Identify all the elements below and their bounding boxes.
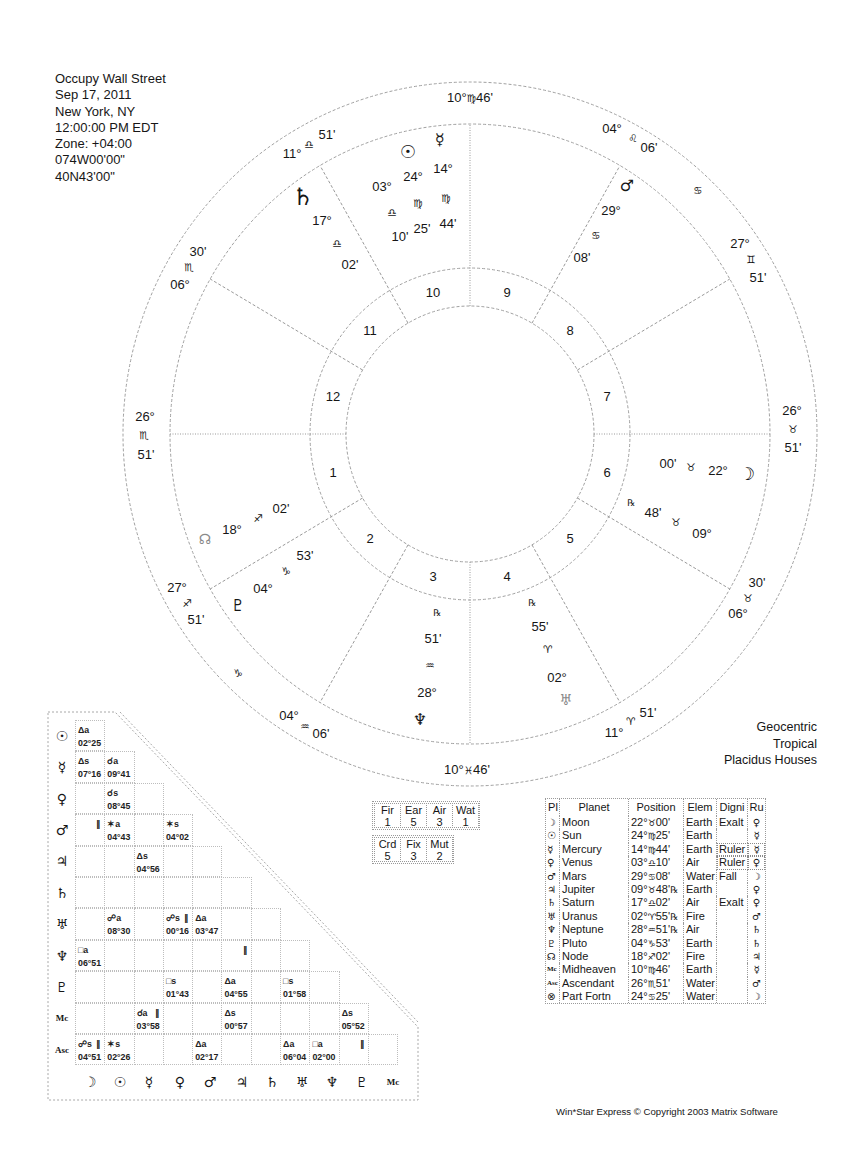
aspect-cell: [251, 971, 281, 1002]
house-number-2: 2: [366, 532, 373, 545]
aspect-cell: Δa03°47: [192, 908, 222, 939]
aspect-row-jupiter: Δs04°56: [75, 846, 221, 877]
position-minute: 00': [656, 816, 670, 828]
col-label-uranus-icon: ♅: [296, 1075, 309, 1089]
node-glyph-icon: ☊: [199, 532, 211, 546]
cusp-11-sign-icon: ♎: [304, 139, 313, 150]
aspect-cell: Δs07°16: [75, 751, 105, 782]
aspect-cell: Δs00°57: [221, 1003, 251, 1034]
cusp-5-sign-icon: ♈: [626, 716, 635, 727]
saturn-minute: 02': [342, 258, 359, 271]
aspect-symbol: □a: [312, 1039, 322, 1049]
planet-name: Sun: [560, 829, 629, 842]
planet-element: Water: [684, 990, 717, 1003]
saturn-glyph-icon: ♄: [292, 185, 314, 209]
aspect-orb: 09°41: [107, 769, 130, 779]
aspect-orb: 00°57: [224, 1021, 247, 1031]
planet-dignity: Exalt: [717, 816, 748, 829]
mercury-glyph-icon: ☿: [435, 132, 445, 148]
row-label-sun-icon: ☉: [56, 729, 69, 743]
aspect-cell: [104, 940, 134, 971]
position-degree: 24°: [631, 990, 648, 1002]
aspect-orb: 07°16: [78, 769, 101, 779]
table-row: ♀ Venus 03°♎10' Air Ruler ♀: [546, 856, 765, 869]
planet-element: Water: [684, 977, 717, 990]
aspect-symbol: Δs: [342, 1008, 353, 1018]
element-count: 1: [453, 817, 478, 829]
table-row: ☉ Sun 24°♍25' Earth ☿: [546, 829, 765, 842]
planet-dignity: [717, 910, 748, 923]
aspect-cell: [251, 908, 281, 939]
aspect-cell: [134, 783, 164, 814]
aspect-cell: Δs04°56: [134, 846, 164, 877]
planet-position: 17°♎02': [629, 896, 684, 909]
aspect-cell: [192, 971, 222, 1002]
planet-name: Saturn: [560, 896, 629, 909]
element-label: Ear: [401, 805, 426, 817]
element-air: Air3: [426, 803, 453, 828]
aspect-cell: [163, 940, 193, 971]
col-label-midheaven: Mc: [387, 1078, 400, 1087]
aspect-cell: [104, 846, 134, 877]
house-number-4: 4: [503, 570, 510, 583]
mars-glyph-icon: ♂: [620, 178, 634, 194]
jupiter-minute: 48': [645, 506, 662, 519]
cusp-9-degree: 04°: [602, 122, 622, 135]
position-sign-icon: ♉: [648, 885, 656, 895]
planet-glyph-icon: ☊: [546, 950, 560, 963]
position-sign-icon: ♑: [648, 939, 656, 949]
aspect-row-mercury: Δs07°16 ☌a09°41: [75, 751, 134, 782]
element-label: Air: [427, 805, 452, 817]
element-label: Wat: [453, 805, 478, 817]
mode-label: Crd: [375, 839, 400, 851]
aspect-symbol: ☍s: [78, 1039, 92, 1049]
aspect-cell: □s01°58: [280, 971, 310, 1002]
aspect-orb: 00°16: [166, 926, 189, 936]
cusp-9-minute: 06': [641, 141, 658, 154]
aspect-symbol: ✶a: [107, 819, 120, 829]
pluto-glyph-icon: ♇: [231, 598, 245, 614]
moon-degree: 22°: [708, 464, 728, 477]
aspect-cell: ☌s08°45: [104, 783, 134, 814]
cusp-10-minute: 46': [476, 90, 493, 105]
aspect-cell: [134, 1034, 164, 1065]
chart-type-house-system: Placidus Houses: [724, 752, 817, 769]
aspect-cell: [75, 846, 105, 877]
aspect-cell: [251, 1034, 281, 1065]
aspect-row-pluto: □s01°43 Δa04°55 □s01°58: [75, 971, 339, 1002]
table-row: ♆ Neptune 28°♒51'℞ Air ♄: [546, 923, 765, 936]
parallel-icon: ∥: [96, 819, 101, 829]
planet-name: Midheaven: [560, 963, 629, 976]
part-of-fortune-icon: ⊗: [546, 990, 560, 1003]
col-label-sun-icon: ☉: [114, 1075, 127, 1089]
position-minute: 25': [656, 990, 670, 1002]
planet-dignity: Fall: [717, 870, 748, 883]
aspect-symbol: ☌a: [137, 1008, 148, 1018]
element-fire: Fir1: [374, 803, 401, 828]
aspect-cell: □a02°00: [309, 1034, 339, 1065]
cusp-line-8: [577, 279, 729, 370]
col-label-mercury-icon: ☿: [145, 1075, 154, 1089]
aspect-cell: [251, 940, 281, 971]
planet-dignity: [717, 963, 748, 976]
table-row: ♃ Jupiter 09°♉48'℞ Earth ♀: [546, 883, 765, 896]
aspect-symbol: Δa: [195, 1039, 206, 1049]
aspect-row-mars: ∥ ✶a04°43 ✶s04°02: [75, 814, 192, 845]
header-pl: Pl: [546, 799, 560, 816]
parallel-icon: ∥: [155, 1008, 160, 1018]
cusp-4-minute: 46': [473, 762, 490, 777]
aspect-cell: Δa04°55: [221, 971, 251, 1002]
aspect-cell: Δa02°25: [75, 720, 105, 751]
col-label-jupiter-icon: ♃: [236, 1075, 249, 1089]
house-number-9: 9: [503, 286, 510, 299]
position-minute: 02': [656, 896, 670, 908]
aspect-orb: 03°47: [195, 926, 218, 936]
sun-glyph-icon: ☉: [400, 143, 416, 161]
planet-position: 04°♑53': [629, 937, 684, 950]
col-label-venus-icon: ♀: [175, 1075, 185, 1089]
position-minute: 25': [656, 829, 670, 841]
aspect-cell: [221, 877, 251, 908]
aspect-symbol: □s: [283, 976, 293, 986]
row-label-ascendant: Asc: [55, 1045, 69, 1054]
aspect-cell: [134, 971, 164, 1002]
